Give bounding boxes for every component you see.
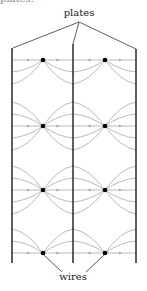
field-line <box>73 229 105 253</box>
wire-dot <box>41 124 46 129</box>
field-line <box>43 126 73 150</box>
field-line <box>12 102 43 126</box>
field-line <box>12 229 43 253</box>
field-line <box>12 60 43 84</box>
wire-dot <box>103 58 108 63</box>
field-line <box>43 166 73 190</box>
wire-dot <box>103 124 108 129</box>
field-line <box>105 229 136 253</box>
wire-dot <box>103 251 108 256</box>
field-line <box>73 60 105 84</box>
field-line <box>43 229 73 253</box>
wire-dot <box>41 188 46 193</box>
field-diagram <box>0 0 147 291</box>
field-line <box>73 126 105 150</box>
field-line <box>43 102 73 126</box>
wires-leader-lines <box>44 255 104 272</box>
field-line <box>12 166 43 190</box>
field-line <box>73 102 105 126</box>
wires <box>41 58 108 256</box>
field-line <box>105 102 136 126</box>
field-line <box>105 60 136 84</box>
field-line <box>43 60 73 84</box>
field-line <box>105 126 136 150</box>
field-line <box>43 190 73 214</box>
field-lines <box>12 60 136 253</box>
field-line <box>105 166 136 190</box>
wire-dot <box>103 188 108 193</box>
wire-dot <box>41 58 46 63</box>
field-line <box>73 166 105 190</box>
field-line <box>73 190 105 214</box>
plates-leader-lines <box>13 22 136 49</box>
field-line <box>12 126 43 150</box>
wire-dot <box>41 251 46 256</box>
field-line <box>12 190 43 214</box>
field-line <box>105 190 136 214</box>
plates <box>12 44 136 263</box>
